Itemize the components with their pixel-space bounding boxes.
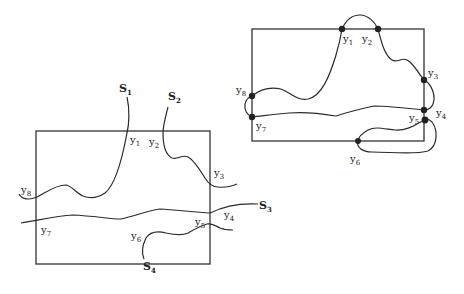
label-right-y3: y3: [427, 67, 438, 81]
point-y6: [355, 138, 361, 144]
label-left-y5: y5: [194, 216, 205, 230]
label-right-y5: y5: [408, 112, 419, 126]
label-right-y6: y6: [349, 153, 361, 167]
label-left-y3: y3: [213, 167, 224, 181]
point-y3: [421, 77, 427, 83]
label-left-y2: y2: [148, 136, 159, 150]
label-s4: S4: [143, 260, 156, 275]
label-left-y1: y1: [129, 134, 140, 148]
label-s2: S2: [168, 90, 181, 105]
curve-y2-y3: [378, 29, 424, 80]
point-y7: [249, 114, 255, 120]
point-y8: [249, 93, 255, 99]
arc-y1-y2: [342, 15, 378, 29]
curve-s3: [21, 204, 258, 223]
label-left-y7: y7: [40, 224, 51, 238]
label-left-y8: y8: [20, 184, 31, 198]
label-s1: S1: [119, 82, 132, 97]
label-right-y2: y2: [361, 33, 372, 47]
arc-y7-y8: [245, 96, 252, 117]
point-y5: [422, 117, 429, 124]
arc-y3-y4: [424, 80, 434, 110]
point-y2: [375, 26, 381, 32]
curve-y8-y1: [252, 29, 342, 99]
label-left-y6: y6: [130, 230, 142, 244]
label-right-y1: y1: [342, 33, 353, 47]
label-right-y4: y4: [435, 107, 447, 121]
label-s3: S3: [259, 199, 272, 214]
label-left-y4: y4: [223, 209, 235, 223]
curve-s4: [143, 224, 233, 259]
curve-y4-y7: [252, 106, 424, 117]
label-right-y8: y8: [235, 84, 246, 98]
diagram-canvas: S1 S2 S3 S4 y1 y2 y3 y4 y5 y6 y7 y8: [0, 0, 464, 294]
curve-s2: [163, 107, 237, 187]
label-right-y7: y7: [255, 120, 266, 134]
left-diagram: S1 S2 S3 S4 y1 y2 y3 y4 y5 y6 y7 y8: [19, 82, 272, 275]
point-y4: [421, 107, 427, 113]
point-y1: [339, 26, 345, 32]
right-diagram: y1 y2 y3 y4 y5 y6 y7 y8: [235, 15, 447, 167]
